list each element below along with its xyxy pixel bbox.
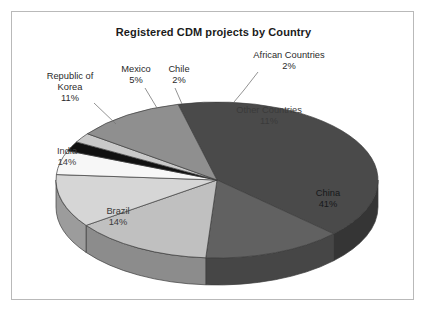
leader-line-korea: [94, 103, 116, 124]
slice-label-brazil: Brazil 14%: [84, 206, 152, 228]
leader-line-african: [234, 72, 258, 102]
slice-label-chile: Chile 2%: [156, 64, 202, 86]
pie-slices: [56, 102, 378, 258]
chart-frame: Registered CDM projects by Country Afric…: [11, 11, 414, 300]
leader-line-mexico: [145, 88, 157, 108]
slice-label-republic-of-korea: Republic of Korea 11%: [30, 71, 110, 104]
slice-label-mexico: Mexico 5%: [112, 64, 160, 86]
pie-chart: African Countries 2% Chile 2% Mexico 5% …: [12, 12, 415, 301]
slice-label-india: India 14%: [36, 146, 98, 168]
slice-label-china: China 41%: [297, 188, 359, 210]
leader-line-chile: [175, 88, 182, 104]
slice-label-african-countries: African Countries 2%: [234, 50, 344, 72]
slice-label-other-countries: Other Countries 11%: [220, 105, 318, 127]
